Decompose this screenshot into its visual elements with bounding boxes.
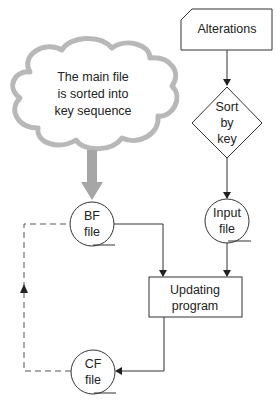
sort-label-line-1: Sort	[216, 100, 239, 114]
updating-program-box[interactable]: Updating program	[149, 277, 242, 317]
sort-decision[interactable]: Sort by key	[192, 87, 262, 158]
input-file-label-line-2: file	[219, 222, 235, 236]
input-file-tape[interactable]: Input file	[205, 199, 251, 243]
bf-file-label-line-2: file	[84, 225, 100, 239]
input-file-label-line-1: Input	[213, 206, 241, 220]
cf-file-tape[interactable]: CF file	[71, 350, 116, 394]
dashed-up-arrowhead-icon	[20, 284, 28, 293]
updating-label-line-1: Updating	[170, 283, 220, 297]
cloud-text-line-3: key sequence	[54, 104, 131, 118]
cf-file-label-line-1: CF	[85, 357, 102, 371]
bf-file-tape[interactable]: BF file	[70, 202, 115, 246]
cloud-annotation: The main file is sorted into key sequenc…	[13, 38, 177, 148]
bf-file-label-line-1: BF	[84, 209, 100, 223]
thick-grey-arrow	[81, 150, 103, 200]
sort-label-line-3: key	[217, 132, 237, 146]
cloud-text-line-2: is sorted into	[58, 87, 129, 101]
cloud-text-line-1: The main file	[57, 70, 129, 84]
edge-cf-bf-dashed	[24, 224, 71, 371]
alterations-label: Alterations	[197, 22, 256, 36]
cf-file-label-line-2: file	[85, 373, 101, 387]
sort-label-line-2: by	[220, 116, 234, 130]
flowchart: The main file is sorted into key sequenc…	[0, 0, 276, 402]
edge-updating-cf	[116, 317, 164, 371]
updating-label-line-2: program	[172, 299, 219, 313]
alterations-card[interactable]: Alterations	[181, 9, 272, 50]
edge-bf-updating	[114, 224, 163, 276]
